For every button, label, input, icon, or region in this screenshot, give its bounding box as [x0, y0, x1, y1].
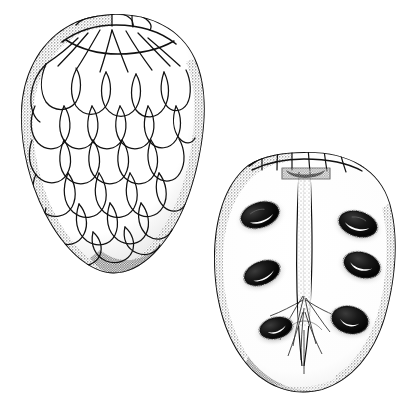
botanical-plate: Annona fruit — whole fruit and longitudi… — [0, 0, 414, 408]
illustration-canvas — [0, 0, 414, 408]
